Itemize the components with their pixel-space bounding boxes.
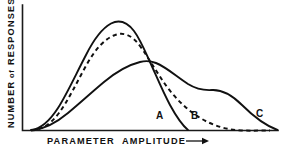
curve-label-a: A	[156, 110, 163, 121]
x-axis-title-word2: AMPLITUDE	[122, 136, 186, 146]
y-axis-title-group: NUMBER of RESPONSES	[6, 0, 16, 128]
y-axis-title-word2: of	[7, 70, 16, 78]
chart-figure: A B C NUMBER of RESPONSES PARAMETER AMPL…	[0, 0, 282, 150]
axes-group	[23, 5, 279, 131]
curve-b-path	[31, 34, 270, 131]
series-b-group	[31, 34, 270, 131]
curve-label-c: C	[256, 108, 263, 119]
chart-canvas: A B C NUMBER of RESPONSES PARAMETER AMPL…	[0, 0, 282, 150]
x-axis-direction-arrow-icon	[186, 138, 209, 144]
y-axis-title-word1: NUMBER	[6, 81, 16, 128]
x-axis-title-word1: PARAMETER	[47, 136, 115, 146]
y-axis-title-word3: RESPONSES	[6, 0, 16, 65]
curve-label-b: B	[191, 110, 198, 121]
x-axis-title-group: PARAMETER AMPLITUDE	[47, 136, 209, 146]
axis-spines	[23, 5, 279, 131]
